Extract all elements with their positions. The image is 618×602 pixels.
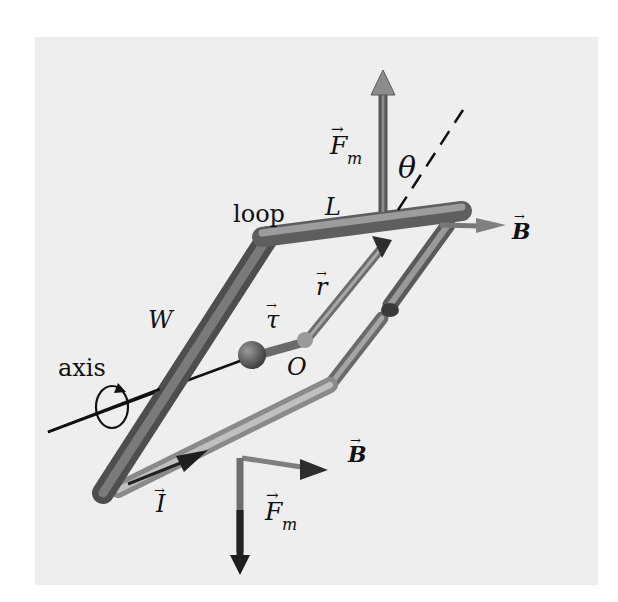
svg-text:→: → [514, 209, 525, 224]
diagram-canvas: F m → θ L loop B → r → τ → W O axis B → … [0, 0, 618, 602]
svg-text:m: m [347, 149, 362, 168]
label-theta: θ [398, 150, 416, 185]
svg-text:→: → [350, 433, 361, 448]
label-current-I: I → [154, 483, 166, 518]
label-origin-O: O [287, 353, 307, 381]
label-axis: axis [58, 354, 106, 382]
svg-text:→: → [316, 266, 327, 281]
svg-text:→: → [266, 298, 277, 313]
panel-background [35, 37, 598, 585]
svg-text:→: → [331, 120, 344, 138]
label-length-L: L [324, 193, 341, 221]
current-loop-torque-diagram: F m → θ L loop B → r → τ → W O axis B → … [0, 0, 618, 602]
svg-text:m: m [282, 515, 297, 534]
svg-text:→: → [266, 486, 279, 504]
label-width-W: W [148, 306, 175, 334]
svg-text:→: → [154, 483, 165, 498]
label-loop: loop [233, 200, 285, 228]
